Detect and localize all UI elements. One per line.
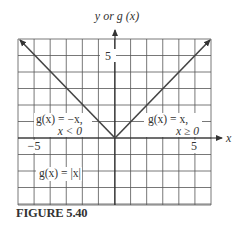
x-tick-5: 5 xyxy=(191,139,197,153)
x-tick-neg5: −5 xyxy=(28,139,41,153)
absolute-value-graph: y or g (x) x 5 −5 5 g(x) = −x, x < 0 g(x… xyxy=(0,0,242,226)
x-axis-label: x xyxy=(225,131,232,145)
y-axis-label: y or g (x) xyxy=(94,9,139,23)
right-annotation-line2: x ≥ 0 xyxy=(175,125,199,137)
left-annotation-line2: x < 0 xyxy=(57,125,83,137)
abs-function-label: g(x) = |x| xyxy=(39,167,81,180)
figure-caption: FIGURE 5.40 xyxy=(16,206,87,221)
y-tick-5: 5 xyxy=(105,49,111,63)
